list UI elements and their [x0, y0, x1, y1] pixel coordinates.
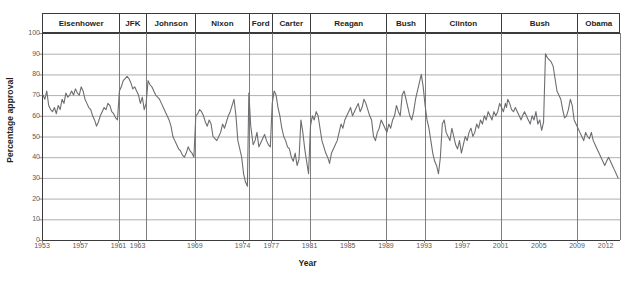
y-tick-label: 100 — [16, 29, 40, 37]
president-label-reagan-6: Reagan — [310, 13, 386, 33]
x-tick-label: 1961 — [111, 242, 127, 249]
president-label-bush-7: Bush — [386, 13, 424, 33]
y-tick-label: 30 — [16, 174, 40, 182]
x-tick-label: 2001 — [493, 242, 509, 249]
x-axis-ticks: 1953195719611963196919741977198119851989… — [0, 241, 631, 257]
y-tick-label: 80 — [16, 70, 40, 78]
y-tick-label: 60 — [16, 112, 40, 120]
x-tick-label: 1977 — [263, 242, 279, 249]
president-label-eisenhower-0: Eisenhower — [42, 13, 118, 33]
y-tick-label: 10 — [16, 215, 40, 223]
approval-line-series — [43, 54, 618, 186]
x-tick-label: 1963 — [130, 242, 146, 249]
x-tick-label: 1957 — [72, 242, 88, 249]
y-tick-label: 50 — [16, 133, 40, 141]
x-tick-label: 1981 — [302, 242, 318, 249]
y-tick-label: 90 — [16, 50, 40, 58]
x-tick-label: 1969 — [187, 242, 203, 249]
x-tick-label: 2005 — [531, 242, 547, 249]
x-tick-label: 1997 — [455, 242, 471, 249]
x-axis-title-text: Year — [299, 258, 317, 268]
president-label-obama-10: Obama — [577, 13, 620, 33]
x-axis-title: Year — [0, 258, 631, 268]
approval-rating-chart: Percentage approval 01020304050607080901… — [0, 0, 631, 285]
president-label-jfk-1: JFK — [119, 13, 146, 33]
y-tick-label: 40 — [16, 153, 40, 161]
y-tick-label: 20 — [16, 195, 40, 203]
x-tick-label: 1993 — [416, 242, 432, 249]
president-label-nixon-3: Nixon — [195, 13, 248, 33]
x-tick-label: 1985 — [340, 242, 356, 249]
x-tick-label: 1974 — [235, 242, 251, 249]
x-tick-label: 1989 — [378, 242, 394, 249]
y-axis-ticks: 0102030405060708090100 — [14, 0, 40, 240]
x-tick-label: 1953 — [34, 242, 50, 249]
president-label-clinton-8: Clinton — [425, 13, 501, 33]
president-label-carter-5: Carter — [272, 13, 310, 33]
x-tick-label: 2012 — [598, 242, 614, 249]
president-label-bush-9: Bush — [501, 13, 577, 33]
president-label-johnson-2: Johnson — [146, 13, 195, 33]
y-tick-label: 70 — [16, 91, 40, 99]
president-label-ford-4: Ford — [249, 13, 272, 33]
x-tick-label: 2009 — [569, 242, 585, 249]
